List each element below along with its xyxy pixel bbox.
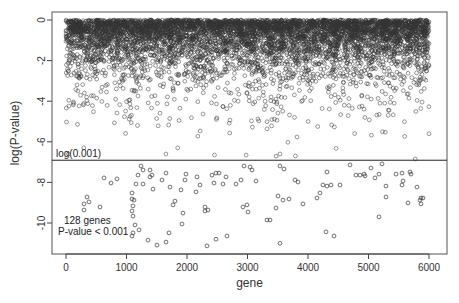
y-tick-label: 0	[36, 17, 47, 23]
y-tick-label: -8	[36, 178, 47, 187]
x-tick-label: 2000	[176, 262, 199, 273]
x-tick-label: 1000	[115, 262, 138, 273]
significant-count-annotation: 128 genes	[64, 215, 111, 226]
y-axis-title: log(P-value)	[8, 101, 22, 166]
significant-points	[82, 162, 425, 248]
nonsignificant-points	[64, 18, 431, 161]
x-tick-label: 6000	[418, 262, 441, 273]
significance-criterion-annotation: P-value < 0.001	[58, 226, 129, 237]
x-tick-label: 3000	[236, 262, 259, 273]
x-axis: 0100020003000400050006000	[63, 254, 440, 273]
y-tick-label: -10	[36, 215, 47, 230]
x-tick-label: 0	[63, 262, 69, 273]
y-tick-label: -4	[36, 96, 47, 105]
x-tick-label: 5000	[357, 262, 380, 273]
x-tick-label: 4000	[297, 262, 320, 273]
scatter-plot: log(0.001) 128 genes P-value < 0.001 010…	[0, 0, 459, 303]
x-axis-title: gene	[236, 276, 263, 290]
y-axis: 0-2-4-6-8-10	[36, 17, 52, 230]
threshold-label: log(0.001)	[56, 148, 101, 159]
y-tick-label: -6	[36, 137, 47, 146]
y-tick-label: -2	[36, 56, 47, 65]
